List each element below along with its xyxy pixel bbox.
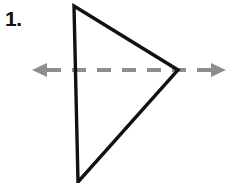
geometry-figure: 1.: [0, 0, 229, 183]
right-arrowhead-icon: [211, 63, 226, 77]
symmetry-diagram: [0, 0, 229, 183]
triangle-shape: [74, 6, 178, 182]
line-of-symmetry-group: [32, 63, 226, 77]
left-arrowhead-icon: [32, 63, 47, 77]
